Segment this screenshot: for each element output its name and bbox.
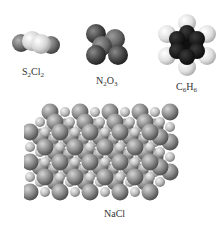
s2cl2-label: S2Cl2 [22, 66, 44, 77]
n2o3-spacefill-icon [84, 22, 132, 68]
nacl-lattice-model [24, 100, 204, 210]
n2o3-label: N2O3 [96, 75, 117, 86]
n2o3-model [84, 22, 132, 68]
s2cl2-spacefill-icon [10, 28, 62, 58]
c6h6-model [158, 14, 216, 76]
s2cl2-model [10, 28, 62, 58]
c6h6-label: C6H6 [176, 81, 197, 92]
nacl-crystal-icon [24, 100, 204, 210]
c6h6-spacefill-icon [158, 14, 216, 76]
nacl-label: NaCl [104, 208, 125, 219]
